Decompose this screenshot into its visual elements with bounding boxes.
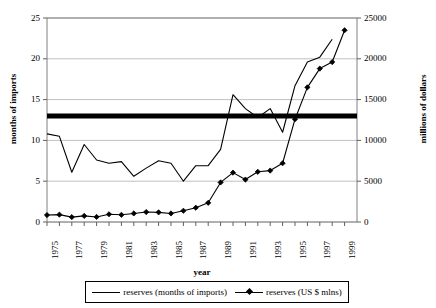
legend-item-usd-label: reserves (US $ mlns) [266,288,342,297]
series-line-0 [47,39,332,181]
y-axis-left-title: months of imports [8,44,18,174]
y-axis-right-tick-label: 20000 [364,54,398,63]
chart-legend: reserves (months of imports) reserves (U… [85,281,349,303]
x-axis-tick-label: 1983 [150,241,159,259]
chart-container: months of imports millions of dollars ye… [0,0,436,308]
x-axis-tick-label: 1989 [224,241,233,259]
y-axis-right-tick-label: 5000 [364,177,398,186]
plot-area [0,0,436,308]
data-point-marker [206,200,211,205]
x-axis-title: year [47,267,357,277]
data-point-marker [69,215,74,220]
data-point-marker [57,212,62,217]
data-point-marker [82,213,87,218]
x-axis-tick-label: 1991 [249,241,258,259]
y-axis-right-tick-label: 0 [364,218,398,227]
y-axis-left-tick-label: 25 [18,14,40,23]
x-axis-tick-label: 1977 [75,241,84,259]
data-point-marker [144,209,149,214]
x-axis-tick-label: 1985 [175,241,184,259]
y-axis-left-tick-label: 20 [18,54,40,63]
data-point-marker [268,168,273,173]
data-point-marker [193,205,198,210]
y-axis-right-tick-label: 25000 [364,14,398,23]
y-axis-left-tick-label: 0 [18,218,40,227]
data-point-marker [280,161,285,166]
y-axis-right-tick-label: 15000 [364,95,398,104]
y-axis-right-title: millions of dollars [418,44,428,174]
legend-line-diamond-icon [235,288,263,297]
y-axis-left-tick-label: 15 [18,95,40,104]
x-axis-tick-label: 1987 [199,241,208,259]
data-point-marker [119,212,124,217]
legend-line-icon [92,288,120,297]
data-point-marker [131,211,136,216]
data-point-marker [168,211,173,216]
x-axis-tick-label: 1995 [299,241,308,259]
legend-item-months-label: reserves (months of imports) [123,288,227,297]
data-point-marker [342,28,347,33]
data-point-marker [94,214,99,219]
data-point-marker [181,208,186,213]
y-axis-right-tick-label: 10000 [364,136,398,145]
data-point-marker [330,59,335,64]
data-point-marker [44,212,49,217]
data-point-marker [255,169,260,174]
x-axis-tick-label: 1993 [274,241,283,259]
data-point-marker [156,210,161,215]
y-axis-left-tick-label: 5 [18,177,40,186]
x-axis-tick-label: 1975 [51,241,60,259]
legend-item-months: reserves (months of imports) [92,288,227,297]
series-line-1 [47,30,345,217]
x-axis-tick-label: 1999 [348,241,357,259]
data-point-marker [106,212,111,217]
x-axis-tick-label: 1979 [100,241,109,259]
x-axis-tick-label: 1997 [323,241,332,259]
legend-item-usd: reserves (US $ mlns) [235,288,342,297]
y-axis-left-tick-label: 10 [18,136,40,145]
x-axis-tick-label: 1981 [125,241,134,259]
